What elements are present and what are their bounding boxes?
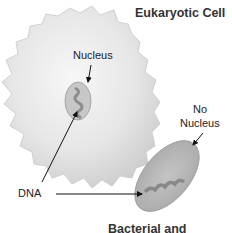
arrow-no-nucleus	[193, 133, 203, 145]
label-dna: DNA	[18, 187, 41, 199]
title-bacterial: Bacterial and	[108, 222, 187, 233]
label-nucleus: Nucleus	[73, 49, 113, 61]
label-no-nucleus: Nucleus	[180, 117, 220, 129]
label-no: No	[193, 103, 207, 115]
title-eukaryotic-cell: Eukaryotic Cell	[135, 6, 225, 20]
